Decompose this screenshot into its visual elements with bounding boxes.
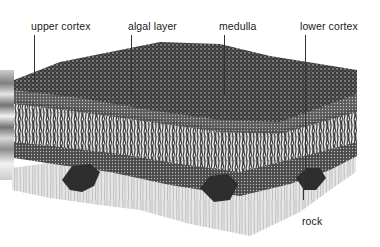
label-algal-layer: algal layer [128,20,177,32]
label-rock: rock [302,215,322,227]
leader-rock [303,175,304,200]
label-upper-cortex: upper cortex [31,20,91,32]
leader-medulla [224,35,225,95]
lichen-illustration [0,0,380,247]
leader-upper-cortex [34,35,35,83]
label-lower-cortex: lower cortex [300,20,358,32]
leader-lower-cortex [305,35,306,175]
leader-algal-layer [131,35,132,95]
label-medulla: medulla [219,20,256,32]
